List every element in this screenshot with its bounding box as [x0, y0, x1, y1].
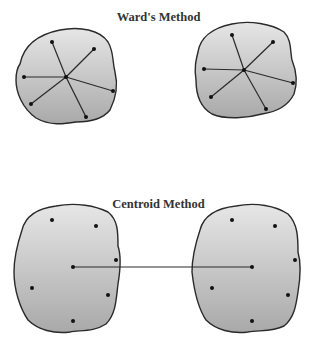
centroid-point: [250, 265, 254, 269]
data-point: [230, 218, 234, 222]
data-point: [210, 286, 214, 290]
centroid-point: [71, 265, 75, 269]
data-point: [293, 258, 297, 262]
data-point: [50, 218, 54, 222]
data-point: [250, 319, 254, 323]
cluster-blob: [192, 204, 300, 332]
data-point: [291, 81, 295, 85]
data-point: [111, 89, 115, 93]
data-point: [92, 47, 96, 51]
centroid-point: [64, 75, 68, 79]
data-point: [286, 293, 290, 297]
data-point: [30, 286, 34, 290]
data-point: [114, 258, 118, 262]
cluster-diagram: [0, 0, 317, 345]
data-point: [50, 40, 54, 44]
centroid-point: [242, 68, 246, 72]
cluster-blob: [14, 204, 120, 332]
data-point: [271, 40, 275, 44]
data-point: [22, 75, 26, 79]
data-point: [29, 102, 33, 106]
data-point: [209, 95, 213, 99]
data-point: [202, 67, 206, 71]
data-point: [273, 224, 277, 228]
data-point: [264, 107, 268, 111]
data-point: [71, 319, 75, 323]
data-point: [106, 293, 110, 297]
data-point: [230, 33, 234, 37]
data-point: [84, 115, 88, 119]
data-point: [94, 224, 98, 228]
